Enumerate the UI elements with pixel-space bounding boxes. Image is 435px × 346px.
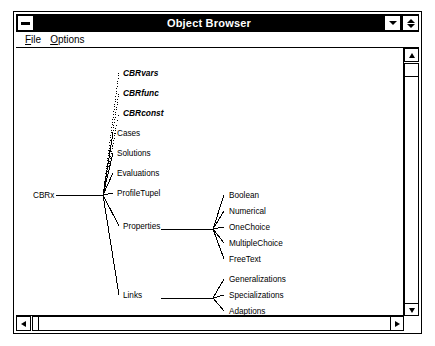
tree-node-label[interactable]: Generalizations <box>229 275 286 284</box>
vertical-scrollbar[interactable] <box>403 48 419 317</box>
tree-edge <box>213 229 224 259</box>
object-tree-diagram: CBRxCBRvarsCBRfuncCBRconstCasesSolutions… <box>16 48 405 317</box>
tree-edge <box>213 229 224 243</box>
tree-edge <box>213 195 224 229</box>
screen: Object Browser File Options CBRxCBRvarsC… <box>0 0 435 346</box>
tree-node-label[interactable]: CBRx <box>33 191 54 200</box>
tree-canvas[interactable]: CBRxCBRvarsCBRfuncCBRconstCasesSolutions… <box>16 48 405 317</box>
arrow-left-icon <box>21 321 26 327</box>
tree-edge <box>213 211 224 229</box>
tree-edge <box>213 298 224 311</box>
tree-node-label[interactable]: ProfileTupel <box>117 189 161 198</box>
tree-node-label[interactable]: FreeText <box>229 255 262 264</box>
tree-node-label[interactable]: Specializations <box>229 291 284 300</box>
tree-node-label[interactable]: OneChoice <box>229 223 270 232</box>
vertical-scroll-thumb[interactable] <box>404 63 419 77</box>
tree-edge <box>103 133 113 195</box>
menu-file-rest: ile <box>31 34 41 45</box>
window-title: Object Browser <box>34 14 384 32</box>
horizontal-scrollbar[interactable] <box>16 315 405 331</box>
arrow-down-icon <box>409 308 415 313</box>
window-menu-button[interactable] <box>17 15 34 31</box>
menu-item-file[interactable]: File <box>25 33 41 47</box>
scrollbar-corner <box>403 315 419 331</box>
scroll-up-button[interactable] <box>404 48 419 62</box>
tree-node-label[interactable]: Properties <box>123 222 160 231</box>
restore-button[interactable] <box>402 15 419 31</box>
scroll-left-button[interactable] <box>16 316 31 331</box>
tree-node-label[interactable]: CBRvars <box>123 68 159 78</box>
tree-node-label[interactable]: Numerical <box>229 207 266 216</box>
title-bar: Object Browser <box>16 14 419 32</box>
triangle-up-down-icon <box>407 19 415 28</box>
arrow-right-icon <box>395 321 400 327</box>
menu-bar: File Options <box>16 32 419 48</box>
tree-node-label[interactable]: CBRfunc <box>123 88 159 98</box>
tree-edge <box>103 153 113 195</box>
menu-options-accelerator: O <box>50 34 58 45</box>
tree-node-label[interactable]: Boolean <box>229 191 259 200</box>
horizontal-scroll-thumb[interactable] <box>32 316 39 331</box>
tree-node-label[interactable]: Cases <box>117 129 140 138</box>
tree-node-label[interactable]: CBRconst <box>123 108 165 118</box>
tree-node-labels: CBRxCBRvarsCBRfuncCBRconstCasesSolutions… <box>33 68 286 316</box>
tree-node-label[interactable]: Solutions <box>117 149 151 158</box>
arrow-up-icon <box>409 53 415 58</box>
vertical-scroll-track[interactable] <box>404 77 419 303</box>
object-browser-window: Object Browser File Options CBRxCBRvarsC… <box>13 11 422 334</box>
tree-edge <box>103 193 113 195</box>
minimize-button[interactable] <box>384 15 401 31</box>
tree-node-label[interactable]: MultipleChoice <box>229 239 283 248</box>
triangle-down-icon <box>389 21 397 25</box>
menu-item-options[interactable]: Options <box>50 33 84 47</box>
horizontal-scroll-track[interactable] <box>39 316 390 331</box>
tree-edge <box>213 227 224 229</box>
tree-node-label[interactable]: Links <box>123 291 142 300</box>
minus-icon <box>21 22 30 25</box>
menu-options-rest: ptions <box>58 34 85 45</box>
tree-node-label[interactable]: Evaluations <box>117 169 159 178</box>
